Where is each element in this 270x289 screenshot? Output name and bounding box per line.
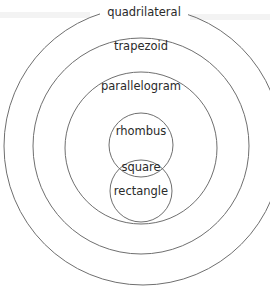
trapezoid-label: trapezoid	[114, 39, 168, 53]
rectangle-label: rectangle	[114, 184, 168, 198]
rhombus-label: rhombus	[116, 124, 167, 138]
background-smudge	[0, 12, 90, 18]
quadrilateral-label: quadrilateral	[107, 5, 181, 19]
square-label: square	[121, 160, 160, 174]
quadrilateral-venn-diagram: quadrilateral trapezoid parallelogram rh…	[0, 0, 270, 289]
parallelogram-circle	[65, 72, 217, 224]
background-smudge	[190, 14, 270, 20]
parallelogram-label: parallelogram	[101, 79, 181, 93]
